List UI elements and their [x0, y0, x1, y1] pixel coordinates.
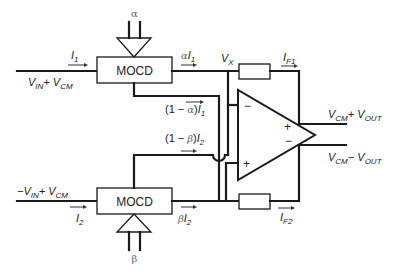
label-one-minus-beta-i2: (1 − β)I2: [165, 132, 205, 147]
feedback-resistor-top: [239, 64, 270, 79]
label-i1: I1: [71, 49, 79, 64]
circuit-diagram: MOCD α MOCD β − + + − I1 VIN+ VCM αI1: [0, 0, 396, 274]
label-i2: I2: [76, 212, 84, 227]
opamp-minus-out-sign: −: [285, 134, 292, 148]
opamp-plus-out-sign: +: [284, 120, 291, 134]
label-vx: VX: [221, 52, 234, 67]
alpha-control-triangle: [117, 38, 151, 57]
label-vin-plus-vcm: VIN+ VCM: [28, 76, 73, 91]
label-one-minus-alpha-i1: (1 − α)I1: [165, 103, 205, 118]
label-vcm-plus-vout: VCM+ VOUT: [328, 108, 383, 123]
label-alpha-i1: αI1: [181, 49, 195, 64]
beta-control-triangle: [117, 214, 151, 232]
arrow-i2: [70, 205, 87, 209]
label-if1: IF1: [283, 51, 295, 66]
label-minus-vin-plus-vcm: −VIN+ VCM: [17, 185, 68, 200]
mocd-bottom-label: MOCD: [116, 195, 153, 209]
label-if2: IF2: [280, 211, 293, 226]
feedback-resistor-bottom: [239, 194, 270, 209]
circuit-svg: MOCD α MOCD β − + + − I1 VIN+ VCM αI1: [0, 0, 396, 274]
beta-label: β: [132, 253, 138, 264]
mocd-top-label: MOCD: [116, 64, 153, 78]
arrow-beta-i2: [181, 205, 197, 209]
arrow-one-minus-beta: [181, 149, 197, 153]
one-minus-beta-wire: [134, 155, 228, 188]
opamp-minus-in-sign: −: [244, 99, 251, 113]
opamp-plus-input-wire: [226, 163, 238, 201]
alpha-label: α: [131, 8, 138, 19]
label-beta-i2: βI2: [177, 212, 192, 227]
arrow-if2: [278, 206, 295, 210]
opamp-plus-in-sign: +: [243, 157, 250, 171]
label-vcm-minus-vout: VCM− VOUT: [328, 151, 383, 166]
